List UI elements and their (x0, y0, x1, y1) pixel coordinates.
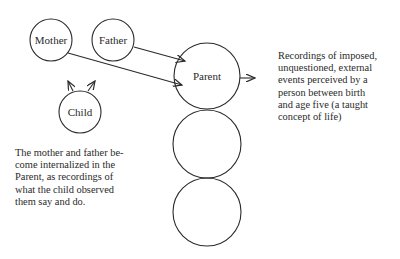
child-observes-father-arrow (88, 81, 95, 91)
internalization-note-line: what the child observed (15, 184, 145, 196)
internalization-note-line: them say and do. (15, 196, 145, 208)
mother-label: Mother (35, 34, 68, 46)
parent-description-line: concept of life) (278, 111, 400, 123)
father-label: Father (99, 34, 127, 46)
parent-label: Parent (193, 70, 221, 82)
child-node: Child (59, 91, 101, 133)
mother-node: Mother (30, 19, 72, 61)
child-label: Child (68, 106, 93, 118)
parent-description: Recordings of imposed, unquestioned, ext… (278, 50, 400, 123)
child-ego-circle (173, 178, 241, 246)
father-to-parent-arrow (134, 47, 185, 61)
internalization-note: The mother and father be- come internali… (15, 147, 145, 208)
parent-description-line: events perceived by a (278, 74, 400, 86)
internalization-note-line: The mother and father be- (15, 147, 145, 159)
parent-description-line: unquestioned, external (278, 62, 400, 74)
internalization-note-line: come internalized in the (15, 159, 145, 171)
adult-circle (173, 110, 241, 178)
parent-description-line: person between birth (278, 87, 400, 99)
parent-stack: Parent (173, 43, 241, 246)
father-node: Father (92, 19, 134, 61)
diagram-canvas: Mother Father Child Parent (0, 0, 400, 259)
parent-description-line: Recordings of imposed, (278, 50, 400, 62)
internalization-note-line: Parent, as recordings of (15, 171, 145, 183)
child-observes-mother-arrow (68, 81, 73, 91)
parent-description-line: and age five (a taught (278, 99, 400, 111)
